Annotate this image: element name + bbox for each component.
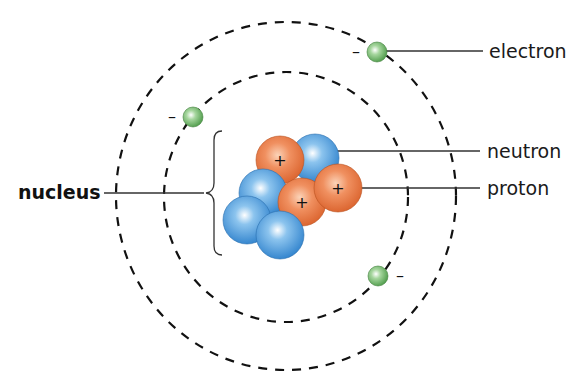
electron-label: electron bbox=[489, 40, 567, 62]
nucleus-brace bbox=[206, 131, 222, 255]
electron-particle bbox=[183, 107, 203, 127]
proton-charge-sign: + bbox=[273, 151, 286, 170]
electron-particle bbox=[368, 266, 388, 286]
nucleus-label: nucleus bbox=[18, 181, 101, 203]
proton-charge-sign: + bbox=[295, 193, 308, 212]
electron-particle bbox=[367, 42, 387, 62]
nucleus: + + + bbox=[223, 134, 362, 259]
electron-charge-sign: – bbox=[352, 42, 360, 61]
electron-charge-sign: – bbox=[396, 266, 404, 285]
electron-charge-sign: – bbox=[168, 107, 176, 126]
atom-diagram: + + + – – – electron neutron proton nucl… bbox=[0, 0, 582, 388]
neutron-particle bbox=[256, 211, 304, 259]
neutron-label: neutron bbox=[487, 140, 561, 162]
proton-charge-sign: + bbox=[331, 179, 344, 198]
proton-label: proton bbox=[487, 177, 549, 199]
